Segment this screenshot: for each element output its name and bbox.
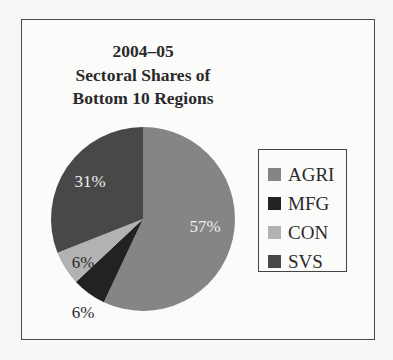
legend-label-svs: SVS (288, 251, 323, 273)
legend-item-agri: AGRI (268, 160, 346, 189)
legend-label-agri: AGRI (288, 164, 334, 186)
legend-swatch-agri (268, 168, 281, 181)
legend-label-con: CON (288, 222, 328, 244)
legend-item-mfg: MFG (268, 189, 346, 218)
legend-label-mfg: MFG (288, 193, 329, 215)
pie-label-con: 6% (72, 253, 95, 272)
legend-item-svs: SVS (268, 247, 346, 276)
pie-label-agri: 57% (189, 217, 220, 236)
chart-legend: AGRI MFG CON SVS (258, 149, 347, 272)
pie-label-mfg: 6% (72, 303, 95, 322)
legend-swatch-svs (268, 255, 281, 268)
legend-swatch-con (268, 226, 281, 239)
legend-item-con: CON (268, 218, 346, 247)
pie-label-svs: 31% (74, 172, 105, 191)
legend-swatch-mfg (268, 197, 281, 210)
